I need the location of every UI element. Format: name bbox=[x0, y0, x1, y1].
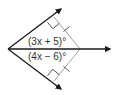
upper-tick-mark bbox=[64, 27, 70, 32]
upper-angle-label: (3x + 5)° bbox=[28, 36, 66, 47]
rays bbox=[8, 9, 110, 89]
angle-bisector-diagram: (3x + 5)° (4x − 6)° bbox=[0, 0, 117, 95]
lower-tick-mark bbox=[64, 67, 70, 72]
lower-angle-label: (4x − 6)° bbox=[28, 51, 66, 62]
upper-right-angle-mark bbox=[48, 22, 60, 28]
lower-right-angle-mark bbox=[48, 69, 60, 75]
